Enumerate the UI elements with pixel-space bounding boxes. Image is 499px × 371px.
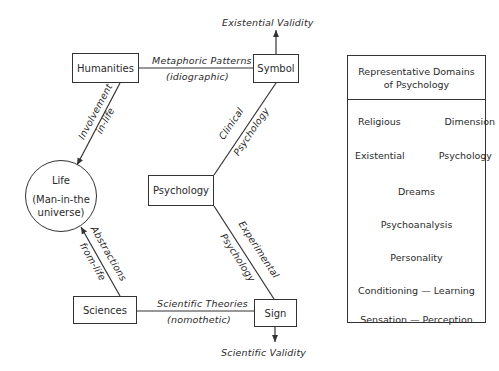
domain-row-religious: Religious Dimension <box>348 116 499 127</box>
metaphoric-label-line2: (idiographic) <box>166 71 229 82</box>
psychology-node: Psychology <box>148 175 214 206</box>
domain-dimension: Dimension <box>445 116 496 127</box>
panel-title-line1: Representative Domains <box>358 65 475 78</box>
domain-existential: Existential <box>355 150 405 161</box>
domain-conditioning-learning: Conditioning — Learning <box>348 285 485 296</box>
life-title: Life <box>52 174 70 187</box>
domain-personality: Personality <box>348 252 485 263</box>
symbol-node: Symbol <box>253 54 299 83</box>
domain-psychology: Psychology <box>439 150 492 161</box>
representative-domains-panel: Representative Domains of Psychology Rel… <box>347 55 486 323</box>
psychology-label: Psychology <box>153 185 209 196</box>
scientific-theories-label-line2: (nomothetic) <box>167 314 231 325</box>
domain-religious: Religious <box>358 116 401 127</box>
sciences-node: Sciences <box>73 296 137 324</box>
scientific-theories-label-line1: Scientific Theories <box>157 298 248 309</box>
sciences-label: Sciences <box>83 305 127 316</box>
life-subtitle-line1: (Man-in-the <box>32 193 90 206</box>
domain-dreams: Dreams <box>348 186 485 197</box>
symbol-label: Symbol <box>257 63 294 74</box>
existential-validity-label: Existential Validity <box>222 17 314 28</box>
life-subtitle-line2: universe) <box>38 206 85 219</box>
panel-header: Representative Domains of Psychology <box>348 56 485 100</box>
scientific-validity-label: Scientific Validity <box>221 347 306 358</box>
sign-node: Sign <box>254 299 297 327</box>
sign-label: Sign <box>265 308 287 319</box>
domain-psychoanalysis: Psychoanalysis <box>348 219 485 230</box>
domain-row-existential: Existential Psychology <box>348 150 498 161</box>
metaphoric-label-line1: Metaphoric Patterns <box>152 55 252 66</box>
panel-title-line2: of Psychology <box>384 78 449 91</box>
life-node: Life (Man-in-the universe) <box>25 160 97 232</box>
humanities-label: Humanities <box>77 63 134 74</box>
domain-sensation-perception: Sensation — Perception <box>348 314 485 325</box>
